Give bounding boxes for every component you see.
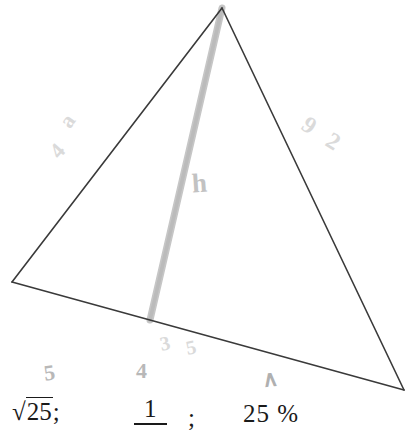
annotation-below-base-four: 4 <box>136 358 147 384</box>
annotation-caret-mark: ∧ <box>261 365 280 393</box>
fraction-separator: ; <box>188 404 195 432</box>
sqrt-separator: ; <box>53 398 60 425</box>
scanned-worksheet-page: h a 4 9 2 3 5 5 4 ∧ √25; 1 ; 25 % <box>0 0 411 434</box>
triangle-base-side <box>12 282 404 390</box>
sqrt-expression: √25; <box>12 398 60 426</box>
triangle-right-side <box>222 8 404 390</box>
fraction-numerator: 1 <box>134 396 167 425</box>
percent-expression: 25 % <box>243 400 299 428</box>
altitude-label-h: h <box>191 168 208 200</box>
triangle-figure <box>0 0 411 434</box>
radicand-value: 25 <box>26 397 53 425</box>
bottom-expression-row: √25; 1 ; 25 % <box>0 398 411 434</box>
radical-sign: √ <box>12 398 26 426</box>
fraction-expression: 1 <box>134 396 167 425</box>
